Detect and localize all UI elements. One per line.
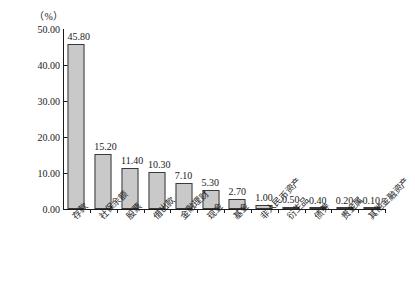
bar-group: 11.40: [117, 29, 144, 209]
bar-group: 45.80: [63, 29, 90, 209]
bar-chart: （%） 0.0010.0020.0030.0040.0050.00 45.801…: [0, 0, 415, 284]
y-axis-tick-label: 10.00: [38, 168, 61, 179]
x-axis-tick-mark: [251, 209, 252, 213]
x-axis-tick-mark: [90, 209, 91, 213]
x-axis-tick-mark: [144, 209, 145, 213]
bar-group: 0.40: [305, 29, 332, 209]
y-axis-tick-label: 30.00: [38, 96, 61, 107]
y-axis-tick-label: 0.00: [43, 204, 61, 215]
bar-value-label: 10.30: [148, 159, 171, 170]
plot-area: 45.8015.2011.4010.307.105.302.701.000.50…: [63, 29, 385, 209]
y-axis-tick-label: 50.00: [38, 24, 61, 35]
bar-group: 2.70: [224, 29, 251, 209]
bar-value-label: 45.80: [67, 31, 90, 42]
bar-value-label: 7.10: [175, 170, 193, 181]
bar-group: 7.10: [170, 29, 197, 209]
bar-group: 0.10: [358, 29, 385, 209]
bar-value-label: 11.40: [121, 155, 143, 166]
bar-group: 0.20: [331, 29, 358, 209]
y-axis-tick-label: 20.00: [38, 132, 61, 143]
y-axis-tick-label: 40.00: [38, 60, 61, 71]
x-axis-tick-mark: [197, 209, 198, 213]
x-axis-tick-mark: [331, 209, 332, 213]
x-axis-tick-mark: [385, 209, 386, 213]
bar-group: 15.20: [90, 29, 117, 209]
bar-value-label: 2.70: [228, 186, 246, 197]
y-axis-tick-labels: 0.0010.0020.0030.0040.0050.00: [0, 0, 60, 284]
x-axis-tick-mark: [224, 209, 225, 213]
bar-group: 5.30: [197, 29, 224, 209]
bar: [68, 44, 85, 209]
bar-value-label: 5.30: [202, 177, 220, 188]
bar-group: 1.00: [251, 29, 278, 209]
x-axis-tick-mark: [358, 209, 359, 213]
x-axis-tick-mark: [170, 209, 171, 213]
bar-group: 10.30: [144, 29, 171, 209]
bar-value-label: 15.20: [94, 141, 117, 152]
x-axis-tick-mark: [305, 209, 306, 213]
x-axis-tick-mark: [278, 209, 279, 213]
x-axis-tick-mark: [117, 209, 118, 213]
